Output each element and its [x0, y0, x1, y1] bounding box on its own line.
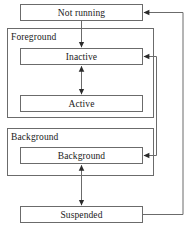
diagram-vector-layer [0, 0, 188, 228]
state-box-active[interactable] [21, 96, 143, 112]
state-box-suspended[interactable] [21, 207, 143, 223]
state-box-not-running[interactable] [21, 5, 143, 21]
state-diagram-canvas: Foreground Background Not running Inacti… [0, 0, 188, 228]
state-box-background[interactable] [21, 148, 143, 164]
state-box-inactive[interactable] [21, 49, 143, 65]
